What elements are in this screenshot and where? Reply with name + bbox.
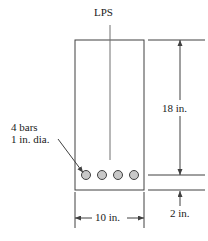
rebar-circle [114,171,123,180]
column-cross-section-figure: LPS 18 in. 2 in. 10 in. 4 bars 1 in. dia… [0,0,208,241]
cover-dimension-label: 2 in. [168,206,192,220]
rebar-leader-line [58,139,83,173]
rebar-annotation: 4 bars 1 in. dia. [10,121,51,145]
height-dimension-label: 18 in. [160,101,189,115]
rebar-circle [130,171,139,180]
rebar-circle [98,171,107,180]
width-dimension-label: 10 in. [92,211,123,223]
lps-label: LPS [92,6,115,18]
rebar-count-label: 4 bars [11,121,38,133]
rebar-diameter-label: 1 in. dia. [11,133,50,145]
